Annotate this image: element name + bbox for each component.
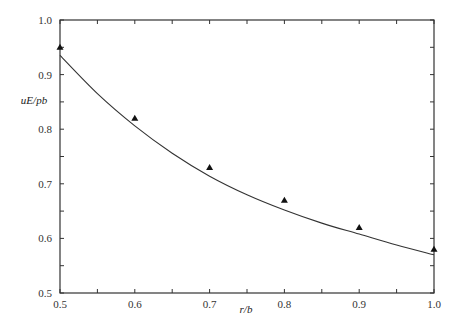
y-tick-label: 0.5 — [38, 287, 52, 299]
triangle-marker — [206, 164, 213, 170]
y-tick-label: 0.8 — [38, 123, 52, 135]
x-tick-label: 0.8 — [278, 298, 292, 310]
measured-markers — [57, 44, 438, 252]
x-tick-label: 0.5 — [53, 298, 67, 310]
triangle-marker — [431, 246, 438, 252]
x-tick-label: 1.0 — [427, 298, 441, 310]
x-axis-title: r/b — [240, 303, 253, 315]
y-axis-title: uE/pb — [21, 94, 48, 106]
theory-curve — [60, 55, 434, 254]
triangle-marker — [281, 197, 288, 203]
y-tick-label: 0.9 — [38, 69, 52, 81]
x-tick-label: 0.7 — [203, 298, 217, 310]
y-tick-label: 1.0 — [38, 14, 52, 26]
y-tick-label: 0.7 — [38, 178, 52, 190]
plot-frame — [60, 20, 434, 293]
y-tick-label: 0.6 — [38, 232, 52, 244]
axis-ticks — [60, 20, 434, 293]
x-tick-label: 0.6 — [128, 298, 142, 310]
x-tick-label: 0.9 — [352, 298, 366, 310]
triangle-marker — [131, 115, 138, 121]
y-tick-labels: 0.50.60.70.80.91.0 — [38, 14, 52, 299]
triangle-marker — [356, 224, 363, 230]
chart-canvas: 0.50.60.70.80.91.0 0.50.60.70.80.91.0 r/… — [0, 0, 457, 328]
